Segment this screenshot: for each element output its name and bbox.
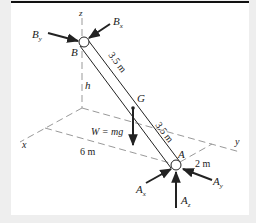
point-B-label: B — [71, 46, 78, 58]
height-label: h — [85, 79, 91, 91]
point-G-label: G — [137, 92, 145, 104]
z-axis-label: z — [78, 8, 83, 18]
ball-joint-A — [171, 160, 181, 170]
upper-length-label: 3.5 m — [106, 50, 129, 75]
axes-dashed — [20, 18, 240, 163]
force-Az-label: Az — [180, 194, 191, 209]
two-m-label: 2 m — [195, 158, 211, 169]
rod-diagram: z x y B h G A 3.5 m 3.5 m W = mg 6 m 2 m… — [0, 0, 256, 223]
lower-length-label: 3.5 m — [153, 120, 176, 145]
force-Ax-arrow — [146, 169, 171, 183]
force-By-arrow — [48, 33, 78, 41]
x-axis — [20, 108, 82, 142]
force-Bx-arrow — [89, 24, 110, 38]
force-Ay-label: Ay — [212, 175, 224, 190]
force-Ay-arrow — [183, 169, 212, 180]
x-axis-label: x — [21, 139, 27, 150]
point-A-label: A — [177, 148, 185, 160]
force-Bx-label: Bx — [113, 15, 124, 30]
y-axis-label: y — [234, 136, 240, 147]
force-By-label: By — [32, 28, 43, 43]
weight-label: W = mg — [91, 126, 123, 137]
ball-joint-B — [79, 37, 89, 47]
six-m-label: 6 m — [80, 146, 96, 157]
force-Ax-label: Ax — [135, 183, 147, 198]
